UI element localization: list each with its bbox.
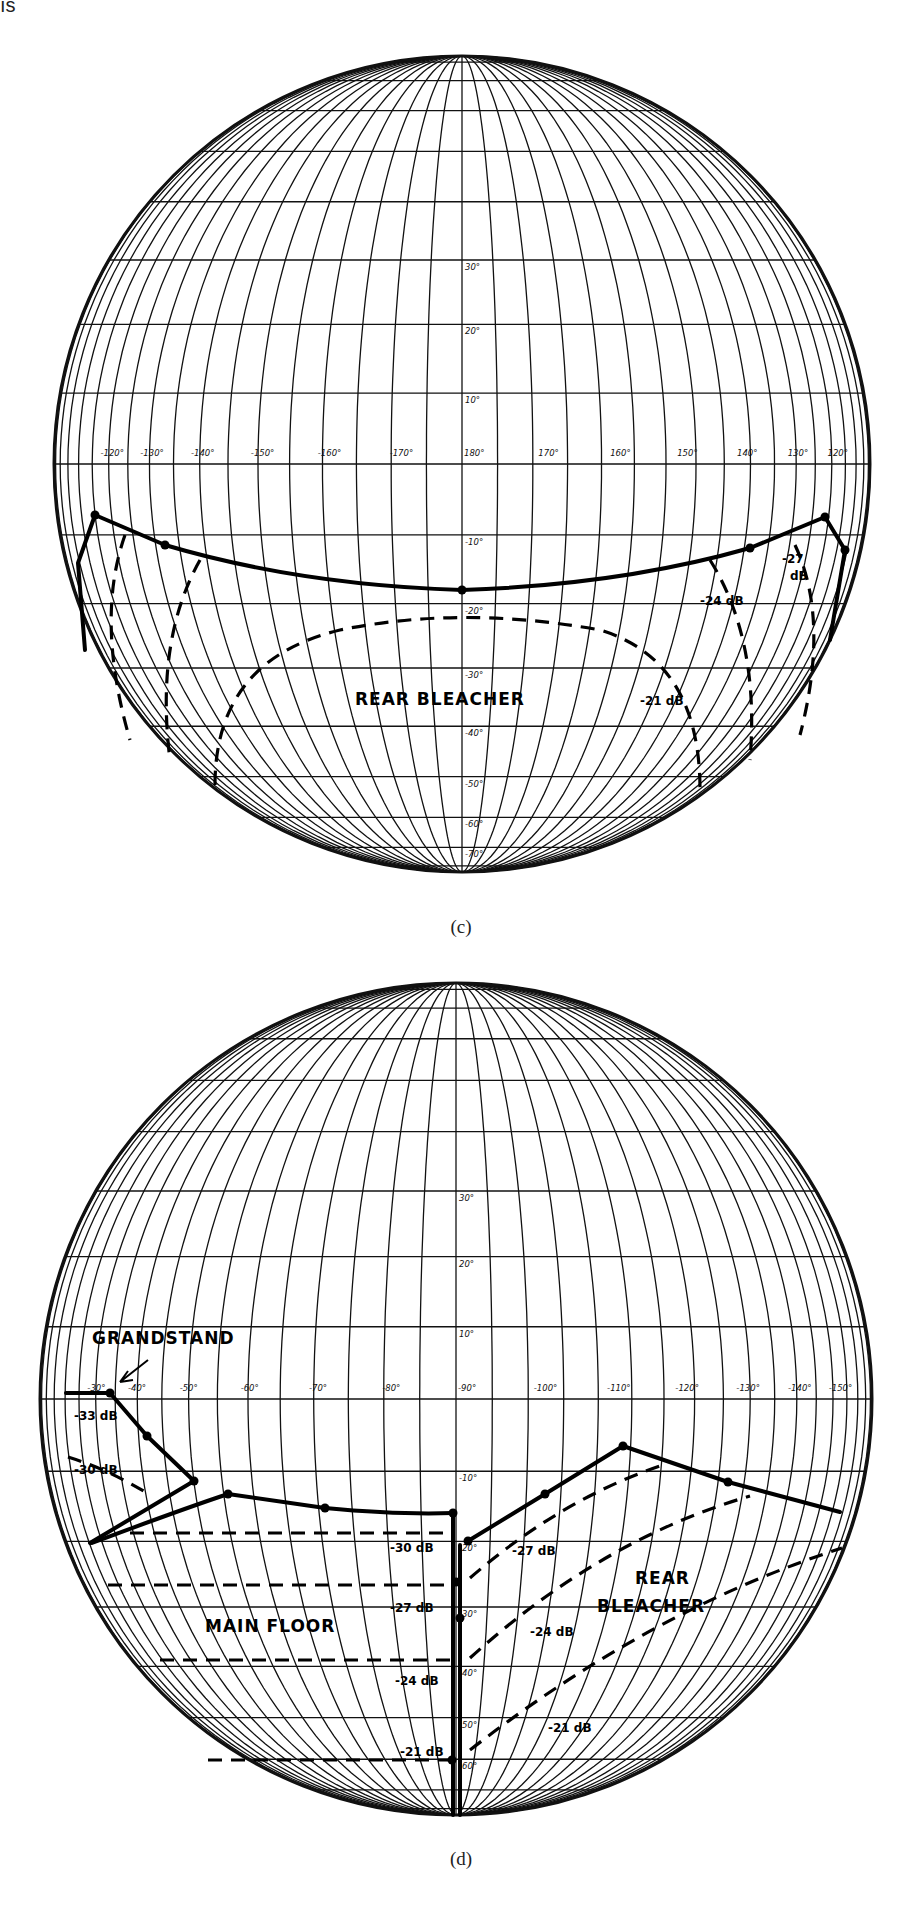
latitude-tick-label: 30° xyxy=(459,1193,474,1203)
longitude-tick-label: -120° xyxy=(675,1383,699,1393)
globe-grid xyxy=(40,983,872,1815)
contour-point xyxy=(190,1477,199,1486)
main-floor-contour xyxy=(92,1494,453,1543)
contour-point xyxy=(724,1478,733,1487)
longitude-tick-label: -70° xyxy=(309,1383,327,1393)
rear-bleacher-dash xyxy=(470,1496,750,1658)
longitude-tick-label: -50° xyxy=(180,1383,198,1393)
longitude-tick-label: -90° xyxy=(458,1383,476,1393)
contour-point xyxy=(448,1756,457,1765)
region-label: MAIN FLOOR xyxy=(205,1616,335,1636)
contour-point xyxy=(464,1537,473,1546)
longitude-tick-label: -40° xyxy=(128,1383,146,1393)
contour-point xyxy=(106,1389,115,1398)
contour-db-label: -21 dB xyxy=(548,1721,592,1735)
latitude-tick-label: 20° xyxy=(459,1259,474,1269)
figure-d: -30°-40°-50°-60°-70°-80°-90°-100°-110°-1… xyxy=(0,0,902,1908)
longitude-tick-label: -60° xyxy=(241,1383,259,1393)
region-label: BLEACHER xyxy=(597,1596,705,1616)
region-label: REAR xyxy=(635,1568,690,1588)
contour-db-label: -27 dB xyxy=(512,1544,556,1558)
contour-db-label: -30 dB xyxy=(390,1541,434,1555)
contour-point xyxy=(452,1578,461,1587)
longitude-tick-label: -110° xyxy=(607,1383,631,1393)
longitude-tick-label: -140° xyxy=(788,1383,812,1393)
grandstand-arrow-icon xyxy=(120,1360,148,1382)
contour-db-label: -24 dB xyxy=(530,1625,574,1639)
longitude-tick-label: -150° xyxy=(829,1383,853,1393)
contour-point xyxy=(224,1490,233,1499)
globe-d-diagram: -30°-40°-50°-60°-70°-80°-90°-100°-110°-1… xyxy=(0,0,902,1908)
contour-db-label: -21 dB xyxy=(400,1745,444,1759)
contour-db-label: -27 dB xyxy=(390,1601,434,1615)
caption-d: (d) xyxy=(0,1848,902,1870)
latitude-tick-label: 10° xyxy=(459,1329,474,1339)
contour-point xyxy=(619,1442,628,1451)
longitude-tick-label: -130° xyxy=(736,1383,760,1393)
contour-db-label: -24 dB xyxy=(395,1674,439,1688)
contour-point xyxy=(541,1490,550,1499)
contour-point xyxy=(143,1432,152,1441)
contours-main-floor-bleacher xyxy=(66,1360,842,1815)
latitude-tick-label: -10° xyxy=(459,1473,477,1483)
contour-point xyxy=(449,1509,458,1518)
contour-point xyxy=(321,1504,330,1513)
contour-point xyxy=(456,1614,465,1623)
contour-db-label: -33 dB xyxy=(74,1409,118,1423)
region-label: GRANDSTAND xyxy=(92,1328,235,1348)
longitude-tick-label: -80° xyxy=(382,1383,400,1393)
longitude-tick-label: -100° xyxy=(534,1383,558,1393)
